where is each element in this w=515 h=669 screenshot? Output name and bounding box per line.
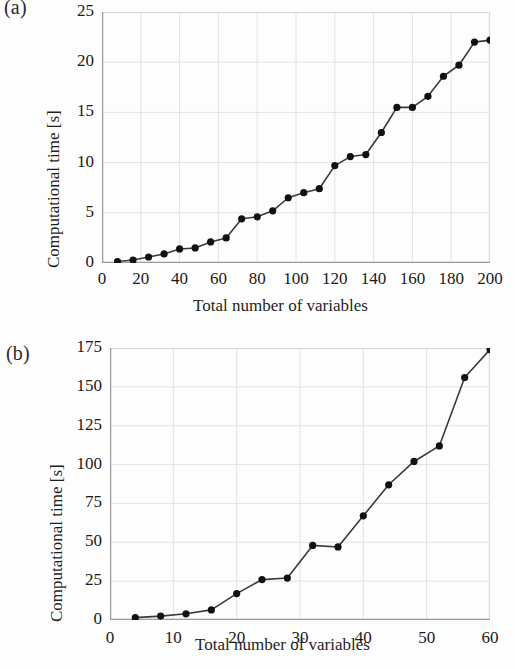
- plot-a-svg: [102, 12, 490, 263]
- y-tick-label: 100: [58, 454, 102, 474]
- x-tick-label: 30: [278, 628, 322, 648]
- data-point: [208, 606, 215, 613]
- x-tick-label: 80: [235, 269, 279, 289]
- x-tick-label: 100: [274, 269, 318, 289]
- x-tick-label: 200: [468, 269, 512, 289]
- data-point: [129, 256, 136, 263]
- data-point: [254, 213, 261, 220]
- data-series-line: [118, 40, 490, 261]
- data-point: [176, 245, 183, 252]
- x-tick-label: 40: [158, 269, 202, 289]
- data-markers: [114, 37, 490, 263]
- y-tick-label: 20: [50, 51, 94, 71]
- x-tick-label: 0: [88, 628, 132, 648]
- x-tick-label: 20: [215, 628, 259, 648]
- data-point: [440, 73, 447, 80]
- panel-a-y-axis-title: Computational time [s]: [44, 110, 64, 268]
- data-point: [233, 590, 240, 597]
- data-point: [347, 153, 354, 160]
- data-point: [207, 238, 214, 245]
- y-tick-label: 25: [50, 1, 94, 21]
- data-point: [160, 250, 167, 257]
- data-point: [334, 543, 341, 550]
- x-tick-label: 0: [80, 269, 124, 289]
- gridlines: [110, 348, 490, 620]
- data-point: [284, 574, 291, 581]
- data-point: [316, 185, 323, 192]
- panel-a-plot-area: [102, 12, 490, 263]
- panel-b: (b) Computational time [s] Total number …: [0, 330, 515, 669]
- data-point: [455, 62, 462, 69]
- y-tick-label: 75: [58, 492, 102, 512]
- panel-b-plot-area: [110, 348, 490, 620]
- panel-a: (a) Computational time [s] Total number …: [0, 0, 515, 330]
- x-tick-label: 40: [341, 628, 385, 648]
- data-point: [331, 162, 338, 169]
- x-tick-label: 140: [352, 269, 396, 289]
- x-tick-label: 10: [151, 628, 195, 648]
- x-tick-label: 20: [119, 269, 163, 289]
- data-point: [157, 613, 164, 620]
- data-point: [471, 39, 478, 46]
- y-tick-label: 5: [50, 202, 94, 222]
- x-tick-label: 50: [405, 628, 449, 648]
- panel-a-label: (a): [4, 0, 27, 19]
- y-tick-label: 175: [58, 337, 102, 357]
- y-tick-label: 10: [50, 152, 94, 172]
- data-point: [461, 374, 468, 381]
- data-point: [132, 614, 139, 620]
- data-point: [309, 542, 316, 549]
- gridlines: [102, 12, 490, 263]
- data-point: [182, 610, 189, 617]
- data-point: [393, 104, 400, 111]
- data-point: [360, 512, 367, 519]
- data-point: [192, 244, 199, 251]
- data-point: [424, 93, 431, 100]
- data-point: [486, 37, 490, 44]
- x-tick-label: 160: [390, 269, 434, 289]
- x-tick-label: 60: [196, 269, 240, 289]
- data-point: [114, 258, 121, 263]
- data-point: [285, 194, 292, 201]
- data-point: [378, 129, 385, 136]
- panel-b-label: (b): [6, 342, 30, 365]
- x-tick-label: 180: [429, 269, 473, 289]
- y-tick-label: 50: [58, 531, 102, 551]
- y-tick-label: 0: [58, 609, 102, 629]
- data-point: [300, 189, 307, 196]
- data-point: [223, 234, 230, 241]
- y-tick-label: 125: [58, 415, 102, 435]
- data-point: [385, 481, 392, 488]
- data-point: [269, 207, 276, 214]
- data-markers: [132, 348, 490, 620]
- x-tick-label: 120: [313, 269, 357, 289]
- data-point: [238, 215, 245, 222]
- panel-a-x-axis-title: Total number of variables: [0, 296, 515, 316]
- y-tick-label: 150: [58, 376, 102, 396]
- x-tick-label: 60: [468, 628, 512, 648]
- data-point: [410, 458, 417, 465]
- data-point: [258, 576, 265, 583]
- y-tick-label: 15: [50, 101, 94, 121]
- data-point: [436, 442, 443, 449]
- y-tick-label: 25: [58, 570, 102, 590]
- plot-b-svg: [110, 348, 490, 620]
- data-point: [145, 253, 152, 260]
- data-series-line: [135, 350, 490, 618]
- data-point: [362, 151, 369, 158]
- data-point: [409, 104, 416, 111]
